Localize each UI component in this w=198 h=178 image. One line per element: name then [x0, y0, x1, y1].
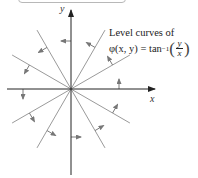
close-paren: )	[184, 40, 190, 57]
gradient-arrow-240	[47, 131, 56, 136]
x-axis-label: x	[150, 93, 154, 104]
formula-lhs: φ(x, y) = tan	[109, 43, 162, 55]
gradient-arrow-60	[86, 42, 95, 47]
gradient-arrow-300	[95, 126, 104, 131]
formula-exponent: −1	[162, 43, 169, 55]
gradient-arrow-210	[29, 113, 34, 122]
numerator: y	[177, 39, 181, 48]
gradient-arrow-330	[113, 104, 118, 113]
y-axis-label: y	[60, 3, 64, 14]
formula: φ(x, y) = tan−1 ( y x )	[109, 39, 190, 58]
gradient-arrow-120	[38, 47, 47, 52]
level-curves-label: Level curves of φ(x, y) = tan−1 ( y x )	[109, 27, 190, 58]
denominator: x	[177, 49, 181, 58]
gradient-arrow-150	[24, 65, 29, 74]
fraction: y x	[176, 39, 183, 58]
open-paren: (	[169, 40, 175, 57]
